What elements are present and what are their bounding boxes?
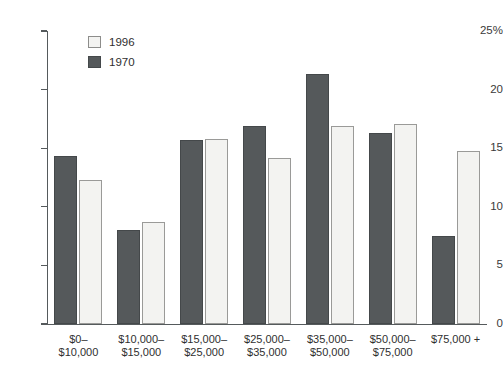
legend-item-1970: 1970 xyxy=(88,53,135,70)
bar-group xyxy=(110,31,173,324)
legend-swatch-icon-1970 xyxy=(88,56,101,68)
bar-1970 xyxy=(180,140,203,324)
legend-label-1996: 1996 xyxy=(109,36,135,48)
x-axis-line xyxy=(47,324,487,325)
bar-1996 xyxy=(331,126,354,324)
bar-1970 xyxy=(54,156,77,324)
x-axis-label-line: $50,000 xyxy=(298,346,361,359)
bar-group xyxy=(173,31,236,324)
x-axis-label: $75,000 + xyxy=(424,333,487,346)
bar-1970 xyxy=(432,236,455,324)
x-axis-label-line: $10,000 xyxy=(47,346,110,359)
x-axis-label-line: $35,000– xyxy=(298,333,361,346)
x-axis-label: $10,000–$15,000 xyxy=(110,333,173,358)
x-axis-label: $0–$10,000 xyxy=(47,333,110,358)
bar-group xyxy=(298,31,361,324)
bar-1996 xyxy=(457,151,480,324)
bar-1996 xyxy=(268,158,291,324)
legend-label-1970: 1970 xyxy=(109,56,135,68)
legend-item-1996: 1996 xyxy=(88,33,135,50)
bar-chart: 0510152025% $0–$10,000$10,000–$15,000$15… xyxy=(0,0,503,375)
bar-group xyxy=(47,31,110,324)
x-axis-label-line: $35,000 xyxy=(236,346,299,359)
bar-1970 xyxy=(306,74,329,324)
x-axis-label: $35,000–$50,000 xyxy=(298,333,361,358)
bar-group xyxy=(236,31,299,324)
bar-group xyxy=(424,31,487,324)
chart-legend: 1996 1970 xyxy=(88,33,135,73)
bar-1996 xyxy=(394,124,417,324)
x-axis-label-line: $75,000 + xyxy=(424,333,487,346)
x-axis-label-line: $10,000– xyxy=(110,333,173,346)
plot-area xyxy=(47,31,487,324)
x-axis-label: $50,000–$75,000 xyxy=(361,333,424,358)
x-axis-label-line: $0– xyxy=(47,333,110,346)
x-axis-label-line: $25,000 xyxy=(173,346,236,359)
legend-swatch-icon-1996 xyxy=(88,36,101,48)
bar-1970 xyxy=(243,126,266,324)
bar-1970 xyxy=(117,230,140,324)
x-axis-label-line: $50,000– xyxy=(361,333,424,346)
x-axis-label-line: $15,000 xyxy=(110,346,173,359)
x-axis-label: $15,000–$25,000 xyxy=(173,333,236,358)
x-axis-label-line: $25,000– xyxy=(236,333,299,346)
bar-1970 xyxy=(369,133,392,324)
bar-1996 xyxy=(205,139,228,324)
x-axis-label: $25,000–$35,000 xyxy=(236,333,299,358)
bar-1996 xyxy=(142,222,165,324)
bar-group xyxy=(361,31,424,324)
x-axis-label-line: $15,000– xyxy=(173,333,236,346)
bar-1996 xyxy=(79,180,102,324)
x-axis-label-line: $75,000 xyxy=(361,346,424,359)
